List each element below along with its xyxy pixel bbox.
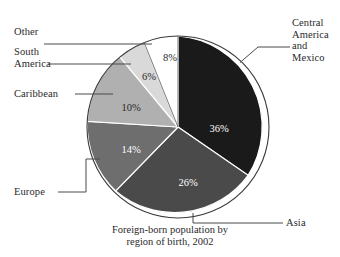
chart-caption: Foreign-born population byregion of birt… — [0, 224, 340, 248]
pie-label-europe: Europe — [14, 186, 45, 198]
pie-value-label-caribbean: 10% — [121, 102, 141, 113]
pie-label-south-america: South America — [14, 46, 51, 69]
pie-value-label-central-america: 36% — [209, 123, 229, 134]
pie-value-label-europe: 14% — [121, 144, 141, 155]
chart-caption-line1: Foreign-born population by — [112, 224, 228, 235]
pie-label-other: Other — [14, 26, 38, 38]
pie-value-label-south-america: 6% — [142, 71, 156, 82]
leader-line-asia — [193, 213, 283, 223]
pie-value-label-asia: 26% — [178, 177, 198, 188]
pie-chart-figure: 36% 26% 14% 10% 6% 8% Central America an… — [0, 0, 340, 257]
chart-caption-line2: region of birth, 2002 — [127, 236, 214, 247]
pie-label-central-america-and-mexico: Central America and Mexico — [292, 17, 329, 63]
pie-label-caribbean: Caribbean — [14, 88, 58, 100]
pie-value-label-other: 8% — [163, 52, 177, 63]
leader-line-central-america — [240, 47, 290, 63]
leader-line-europe — [58, 159, 100, 192]
